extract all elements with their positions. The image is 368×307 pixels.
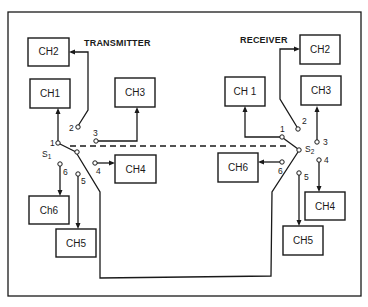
tx-terminal-2	[76, 125, 80, 129]
rx-ch1-block: CH 1	[225, 77, 265, 106]
arrow-icon	[58, 190, 63, 196]
arrow-icon	[109, 161, 115, 166]
tx-ch6-label: Ch6	[40, 205, 59, 216]
tx-ch3-block: CH3	[115, 78, 155, 107]
rx-terminal-4	[317, 158, 321, 162]
tx-terminal-1-label: 1	[50, 138, 55, 148]
arrow-icon	[76, 223, 81, 229]
tx-switch-label: S1	[42, 149, 52, 160]
rx-terminal-4-label: 4	[324, 155, 329, 165]
rx-terminal-3-label: 3	[323, 137, 328, 147]
tx-ch1-label: CH1	[40, 88, 60, 99]
arrow-icon	[317, 186, 322, 192]
rx-ch1-label: CH 1	[234, 86, 257, 97]
arrow-icon	[243, 106, 248, 112]
tx-terminal-4-label: 4	[96, 166, 101, 176]
tx-ch4-block: CH4	[115, 155, 156, 183]
rx-ch2-block: CH2	[300, 35, 340, 64]
arrow-icon	[297, 220, 302, 226]
tx-switch-arm	[58, 143, 76, 152]
rx-ch5-label: CH5	[293, 235, 313, 246]
arrow-icon	[315, 106, 320, 112]
tx-ch1-block: CH1	[30, 79, 70, 108]
rx-terminal-5	[297, 171, 301, 175]
rx-switch-label: S2	[305, 144, 315, 155]
tx-terminal-5	[76, 172, 80, 176]
rx-terminal-2	[296, 127, 300, 131]
tx-terminal-1	[56, 141, 60, 145]
common-link-wire	[77, 152, 298, 278]
rx-ch4-block: CH4	[305, 192, 345, 220]
rx-switch-arm	[283, 138, 298, 149]
rx-switch-pivot	[297, 148, 301, 152]
tx-ch2-block: CH2	[28, 38, 69, 66]
rx-ch4-label: CH4	[315, 201, 335, 212]
rx-terminal-1	[280, 135, 284, 139]
tx-ch4-label: CH4	[125, 164, 145, 175]
rx-wire-2	[280, 49, 297, 127]
rx-ch5-block: CH5	[283, 226, 323, 255]
arrow-icon	[56, 108, 61, 114]
rx-ch3-label: CH3	[311, 85, 331, 96]
arrow-icon	[69, 50, 75, 55]
receiver-title: RECEIVER	[240, 35, 288, 45]
tx-terminal-3	[94, 139, 98, 143]
transmitter-title: TRANSMITTER	[84, 38, 151, 48]
rx-terminal-3	[315, 140, 319, 144]
tx-ch6-block: Ch6	[29, 196, 69, 224]
tx-ch2-label: CH2	[38, 46, 58, 57]
rx-terminal-1-label: 1	[280, 124, 285, 134]
rx-terminal-2-label: 2	[302, 116, 307, 126]
tx-ch5-label: CH5	[66, 238, 86, 249]
rx-terminal-6	[280, 160, 284, 164]
rx-ch3-block: CH3	[301, 76, 341, 105]
tx-terminal-4	[93, 161, 97, 165]
tx-wire-2	[71, 52, 88, 126]
arrow-icon	[258, 160, 264, 165]
tx-wire-3	[98, 109, 137, 141]
tx-ch3-label: CH3	[125, 87, 145, 98]
rx-terminal-5-label: 5	[304, 172, 309, 182]
rx-terminal-6-label: 6	[278, 166, 283, 176]
tx-terminal-6	[58, 162, 62, 166]
rx-ch6-block: CH6	[218, 153, 258, 182]
tx-terminal-6-label: 6	[63, 167, 68, 177]
tx-switch-pivot	[75, 150, 79, 154]
rx-wire-1	[245, 108, 281, 137]
tx-ch5-block: CH5	[56, 229, 96, 257]
tx-terminal-3-label: 3	[93, 128, 98, 138]
rx-ch6-label: CH6	[228, 162, 248, 173]
arrow-icon	[294, 47, 300, 52]
tx-terminal-2-label: 2	[69, 123, 74, 133]
rx-ch2-label: CH2	[310, 44, 330, 55]
channel-switching-diagram: TRANSMITTER CH2 CH1 CH3 CH4 Ch6 CH5	[0, 0, 368, 307]
arrow-icon	[135, 107, 140, 113]
tx-terminal-5-label: 5	[81, 176, 86, 186]
